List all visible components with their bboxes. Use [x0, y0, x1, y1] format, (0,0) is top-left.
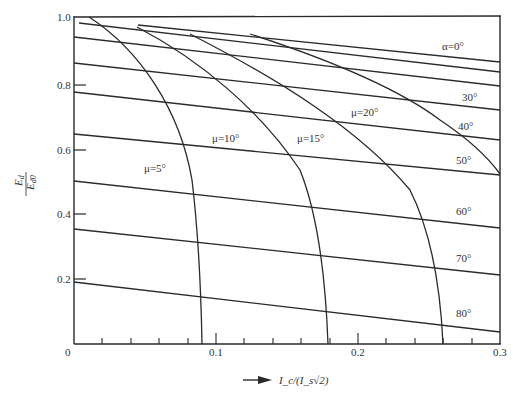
mu-label-15: μ=15°	[297, 132, 325, 144]
top-border	[74, 16, 501, 17]
x-ticks	[102, 333, 472, 344]
x-tick-label-0: 0	[65, 346, 71, 358]
alpha-label-80: 80°	[456, 307, 471, 319]
alpha-line-40	[74, 92, 500, 140]
x-axis-label: I_c/(I_s√2)	[278, 374, 329, 387]
mu-label-5: μ=5°	[144, 162, 166, 174]
y-tick-label-0.6: 0.6	[57, 144, 71, 156]
alpha-line-80	[74, 282, 500, 332]
y-tick-label-0.8: 0.8	[57, 79, 71, 91]
mu-curve-10	[137, 27, 328, 344]
mu-label-20: μ=20°	[351, 106, 379, 118]
alpha-label-40: 40°	[458, 120, 473, 132]
alpha-label-30: 30°	[462, 91, 477, 103]
alpha-line-60	[74, 181, 500, 228]
x-axis-title: I_c/(I_s√2)	[243, 374, 329, 387]
y-tick-label-0.4: 0.4	[57, 208, 71, 220]
alpha-line-30	[74, 63, 500, 110]
alpha-label-0: α=0°	[442, 40, 464, 52]
mu-label-10: μ=10°	[212, 132, 240, 144]
y-tick-label-1.0: 1.0	[57, 11, 71, 23]
arrow-head-icon	[258, 376, 272, 384]
x-tick-label-0.2: 0.2	[351, 346, 365, 358]
chart: 1.0 0.8 0.6 0.4 0.2 0 0.1 0.2 0.3 α=0° 3…	[0, 0, 513, 396]
alpha-line-70	[74, 229, 500, 275]
alpha-line-50	[74, 134, 500, 175]
alpha-label-50: 50°	[456, 154, 471, 166]
alpha-label-60: 60°	[456, 205, 471, 217]
y-tick-label-0.2: 0.2	[57, 273, 71, 285]
y-axis-title: Ed Ed0	[12, 172, 38, 196]
alpha-label-70: 70°	[456, 252, 471, 264]
x-tick-label-0.1: 0.1	[209, 346, 223, 358]
mu-curves	[89, 17, 500, 344]
alpha-lines	[74, 23, 500, 332]
x-tick-label-0.3: 0.3	[493, 346, 507, 358]
